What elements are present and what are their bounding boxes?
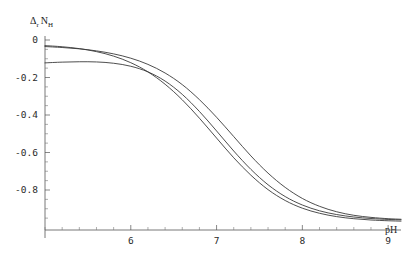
x-axis-tick-labels: 6789 [128, 235, 391, 246]
x-tick-label: 6 [128, 235, 134, 246]
x-tick-label: 7 [214, 235, 220, 246]
data-curve [45, 47, 401, 220]
y-tick-label: -0.8 [15, 184, 38, 195]
chart-figure: ΔrNH pH 0-0.2-0.4-0.6-0.8 6789 [0, 0, 409, 254]
x-tick-label: 8 [299, 235, 305, 246]
data-curves [45, 46, 401, 222]
y-axis-ticks [45, 40, 50, 218]
y-tick-label: 0 [32, 34, 38, 45]
data-curve [45, 46, 401, 222]
y-tick-label: -0.2 [15, 72, 38, 83]
y-axis-label-n: N [41, 15, 48, 26]
y-axis-tick-labels: 0-0.2-0.4-0.6-0.8 [15, 34, 38, 195]
y-axis-label: ΔrNH [30, 15, 53, 29]
y-axis-label-n-sub: H [48, 21, 53, 29]
y-axis-label-delta-sub: r [36, 21, 39, 29]
y-tick-label: -0.4 [15, 109, 38, 120]
x-axis-label: pH [385, 224, 397, 235]
plot-area: ΔrNH pH 0-0.2-0.4-0.6-0.8 6789 [0, 0, 409, 254]
x-tick-label: 9 [385, 235, 391, 246]
x-axis-ticks [45, 225, 388, 230]
y-tick-label: -0.6 [15, 147, 38, 158]
data-curve [45, 62, 401, 220]
